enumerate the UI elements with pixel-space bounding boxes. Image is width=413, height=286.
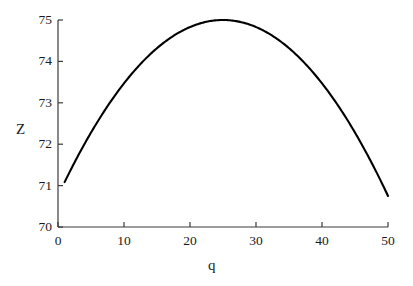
y-axis-tick-label: 72: [20, 137, 52, 151]
y-axis-tick-label: 70: [20, 220, 52, 234]
y-axis-tick-label: 71: [20, 179, 52, 193]
x-axis-title: q: [208, 258, 216, 273]
y-axis-tick-label: 75: [20, 13, 52, 27]
y-axis-title: Z: [16, 122, 25, 137]
x-axis-tick-label: 30: [236, 234, 276, 248]
x-axis-tick-label: 40: [302, 234, 342, 248]
x-axis-tick-label: 0: [38, 234, 78, 248]
axis-lines: [58, 20, 388, 227]
data-curve-z-of-q: [65, 20, 388, 196]
chart-container: 707172737475 01020304050 Z q: [0, 0, 413, 286]
y-axis-ticks: [58, 20, 63, 227]
y-axis-tick-label: 73: [20, 96, 52, 110]
x-axis-tick-label: 50: [368, 234, 408, 248]
x-axis-tick-label: 20: [170, 234, 210, 248]
y-axis-tick-label: 74: [20, 54, 52, 68]
x-axis-ticks: [58, 222, 388, 227]
x-axis-tick-label: 10: [104, 234, 144, 248]
